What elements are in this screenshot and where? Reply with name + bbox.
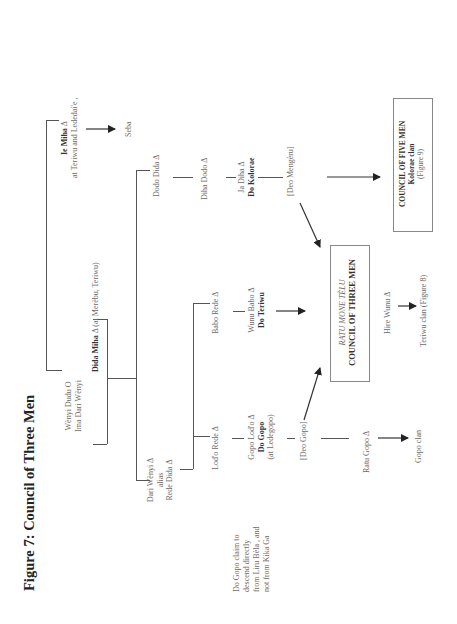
at-ledegopo: (at Ledegopo) — [266, 404, 276, 470]
node-hire-wunu: Hire Wunu Δ — [383, 292, 393, 334]
node-teriwu-clan: Teriwu clan (Figure 8) — [419, 275, 429, 347]
gopo-lodo-name: Gopo Lod'o Δ — [247, 404, 257, 470]
node-deo-mengeru: [Deo Mengèru] — [286, 146, 296, 196]
node-wunu-babo: Wunu Babo Δ Do Teriwu — [247, 280, 266, 340]
do-teriwu: Do Teriwu — [257, 280, 267, 340]
node-gopo-lodo: Gopo Lod'o Δ Do Gopo (at Ledegopo) — [247, 404, 276, 470]
ima-dari-wenyi: Ima Dari Wènyi — [74, 365, 84, 447]
node-dari-wenyi: Dari Wènyi Δ alias Rede Dida Δ — [146, 447, 175, 513]
alias-label: alias — [156, 447, 166, 513]
node-ratu-gopo: Ratu Gopo Δ — [362, 431, 372, 473]
ja-diha-name: Ja Diha Δ — [237, 154, 247, 200]
claim-line: not from Kika Ga — [262, 526, 272, 592]
node-dida-miha: Dida Miha Δ (at Merèbu, Teriwu) — [91, 262, 101, 372]
node-dodo-dida: Dodo Dida Δ — [152, 155, 162, 197]
wunu-babo-name: Wunu Babo Δ — [247, 280, 257, 340]
arrow-deo-mengeru-to-council — [300, 203, 320, 247]
node-babo-rede: Babo Rede Δ — [211, 292, 221, 334]
council-five-title: COUNCIL OF FIVE MEN — [398, 103, 407, 225]
council-of-three-men-label: RATU MONE TÈLU COUNCIL OF THREE MEN — [338, 250, 357, 375]
rede-dida-name: Rede Dida Δ — [165, 447, 175, 513]
node-diha-dodo: Diha Dodo Δ — [200, 158, 210, 200]
figure-9-ref: (Figure 9) — [416, 103, 425, 225]
claim-line: descend directly — [242, 526, 252, 592]
do-gopo: Do Gopo — [257, 404, 267, 470]
node-ja-diha: Ja Diha Δ Do Kolorae — [237, 154, 256, 200]
note-do-gopo-claim: Do Gopo claim to descend directly from L… — [232, 526, 272, 592]
ie-miha-note: at Teriwu and Lededai'e , — [70, 98, 80, 178]
do-kolorae: Do Kolorae — [247, 154, 257, 200]
male-symbol: Δ — [60, 121, 69, 128]
arrow-deo-gopo-to-council — [304, 368, 320, 420]
ie-miha-name: Ie Miha — [60, 128, 69, 155]
node-deo-gopo: [Deo Gopo] — [299, 422, 309, 460]
dida-miha-name: Dida Miha — [91, 335, 100, 372]
wenyi-dudu-name: Wènyi Dudu O — [64, 365, 74, 447]
node-seba: Seba — [124, 121, 134, 137]
claim-line: from Liru Bèla , and — [252, 526, 262, 592]
node-wenyi-dudu: Wènyi Dudu O Ima Dari Wènyi — [64, 365, 83, 447]
council-of-five-men-label: COUNCIL OF FIVE MEN Kolorae clan (Figure… — [398, 103, 425, 225]
council-three-title: COUNCIL OF THREE MEN — [348, 250, 358, 375]
node-ie-miha: Ie Miha Δ at Teriwu and Lededai'e , — [60, 98, 79, 178]
claim-line: Do Gopo claim to — [232, 526, 242, 592]
node-lodo-rede: Lod'o Rede Δ — [211, 426, 221, 470]
kolorae-clan: Kolorae clan — [407, 103, 416, 225]
dari-wenyi-name: Dari Wènyi Δ — [146, 447, 156, 513]
node-gopo-clan: Gopo clan — [414, 430, 424, 463]
dida-miha-note: Δ (at Merèbu, Teriwu) — [91, 262, 100, 335]
